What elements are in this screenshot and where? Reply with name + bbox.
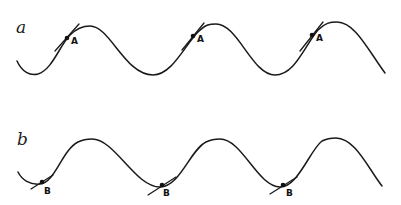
point-label-a2: A — [197, 34, 204, 44]
wave-b — [18, 138, 382, 187]
point-b1 — [40, 180, 45, 185]
point-label-b2: B — [163, 188, 170, 198]
point-b2 — [160, 183, 165, 188]
wave-diagram: a A A A b B B B — [0, 0, 401, 205]
panel-b: b B B B — [17, 129, 382, 198]
point-label-a3: A — [316, 33, 323, 43]
panel-a: a A A A — [16, 17, 385, 75]
point-label-b1: B — [44, 186, 51, 196]
point-a1 — [65, 36, 70, 41]
point-a2 — [191, 34, 196, 39]
panel-a-label: a — [16, 17, 26, 37]
wave-a — [17, 22, 385, 75]
point-label-a1: A — [71, 36, 78, 46]
panel-b-label: b — [17, 129, 28, 149]
point-b3 — [281, 183, 286, 188]
point-a3 — [310, 33, 315, 38]
point-label-b3: B — [286, 188, 293, 198]
